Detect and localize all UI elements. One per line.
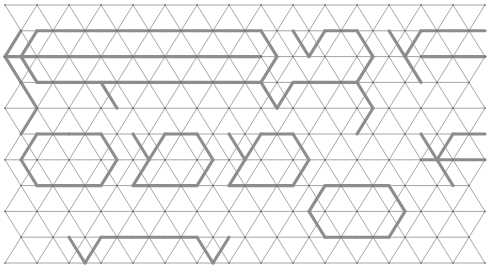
lattice-node xyxy=(372,236,374,238)
lattice-node xyxy=(276,236,278,238)
lattice-node xyxy=(132,262,134,264)
lattice-node xyxy=(244,185,246,187)
lattice-node xyxy=(372,30,374,32)
lattice-node xyxy=(4,4,6,6)
lattice-node xyxy=(100,4,102,6)
lattice-node xyxy=(292,159,294,161)
lattice-node xyxy=(308,185,310,187)
lattice-node xyxy=(340,236,342,238)
lattice-node xyxy=(100,107,102,109)
lattice-node xyxy=(100,211,102,213)
lattice-node xyxy=(164,56,166,58)
lattice-node xyxy=(340,185,342,187)
lattice-node xyxy=(180,236,182,238)
lattice-node xyxy=(36,262,38,264)
lattice-node xyxy=(260,211,262,213)
lattice-node xyxy=(388,107,390,109)
lattice-node xyxy=(276,30,278,32)
lattice-node xyxy=(356,159,358,161)
lattice-node xyxy=(388,211,390,213)
lattice-node xyxy=(356,262,358,264)
lattice-node xyxy=(452,262,454,264)
lattice-node xyxy=(468,185,470,187)
lattice-node xyxy=(452,159,454,161)
lattice-node xyxy=(132,211,134,213)
lattice-node xyxy=(452,56,454,58)
lattice-node xyxy=(196,159,198,161)
lattice-node xyxy=(4,211,6,213)
lattice-node xyxy=(308,236,310,238)
lattice-node xyxy=(276,133,278,135)
lattice-node xyxy=(308,82,310,84)
lattice-node xyxy=(228,211,230,213)
lattice-node xyxy=(388,4,390,6)
lattice-canvas xyxy=(0,0,496,270)
lattice-node xyxy=(196,56,198,58)
lattice-node xyxy=(484,56,486,58)
lattice-node xyxy=(100,159,102,161)
lattice-node xyxy=(132,107,134,109)
lattice-node xyxy=(484,159,486,161)
lattice-node xyxy=(324,107,326,109)
lattice-node xyxy=(228,56,230,58)
lattice-node xyxy=(340,82,342,84)
lattice-node xyxy=(116,185,118,187)
lattice-node xyxy=(340,30,342,32)
lattice-node xyxy=(36,56,38,58)
lattice-node xyxy=(4,56,6,58)
lattice-node xyxy=(116,236,118,238)
lattice-node xyxy=(356,211,358,213)
lattice-node xyxy=(308,133,310,135)
lattice-node xyxy=(340,133,342,135)
lattice-node xyxy=(196,211,198,213)
lattice-node xyxy=(116,30,118,32)
lattice-node xyxy=(452,4,454,6)
lattice-node xyxy=(420,159,422,161)
lattice-node xyxy=(20,236,22,238)
lattice-node xyxy=(292,107,294,109)
lattice-node xyxy=(52,236,54,238)
lattice-node xyxy=(20,185,22,187)
lattice-node xyxy=(244,82,246,84)
lattice-node xyxy=(356,56,358,58)
lattice-node xyxy=(212,185,214,187)
lattice-node xyxy=(4,159,6,161)
lattice-node xyxy=(68,56,70,58)
lattice-node xyxy=(132,159,134,161)
lattice-node xyxy=(164,107,166,109)
lattice-node xyxy=(148,30,150,32)
lattice-node xyxy=(52,185,54,187)
lattice-node xyxy=(404,82,406,84)
lattice-node xyxy=(4,107,6,109)
lattice-node xyxy=(436,82,438,84)
lattice-node xyxy=(404,30,406,32)
lattice-node xyxy=(180,30,182,32)
lattice-node xyxy=(292,262,294,264)
lattice-node xyxy=(484,211,486,213)
lattice-node xyxy=(100,56,102,58)
lattice-node xyxy=(180,82,182,84)
lattice-node xyxy=(324,159,326,161)
lattice-node xyxy=(132,4,134,6)
lattice-node xyxy=(404,236,406,238)
lattice-node xyxy=(420,211,422,213)
lattice-node xyxy=(148,236,150,238)
lattice-node xyxy=(164,159,166,161)
lattice-node xyxy=(84,185,86,187)
lattice-node xyxy=(372,82,374,84)
lattice-node xyxy=(404,133,406,135)
lattice-node xyxy=(84,236,86,238)
lattice-node xyxy=(164,211,166,213)
lattice-node xyxy=(420,107,422,109)
lattice-node xyxy=(292,4,294,6)
lattice-node xyxy=(212,236,214,238)
lattice-node xyxy=(484,4,486,6)
lattice-node xyxy=(276,82,278,84)
lattice-node xyxy=(36,107,38,109)
lattice-node xyxy=(52,82,54,84)
lattice-node xyxy=(228,159,230,161)
lattice-node xyxy=(452,107,454,109)
lattice-node xyxy=(468,82,470,84)
lattice-node xyxy=(20,133,22,135)
lattice-node xyxy=(212,82,214,84)
